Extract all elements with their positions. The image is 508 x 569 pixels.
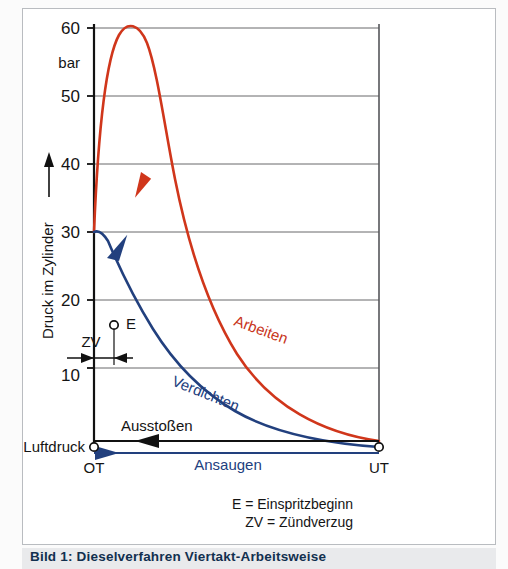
legend-line-zv: ZV = Zündverzug <box>245 514 353 530</box>
label-luftdruck: Luftdruck <box>23 438 85 455</box>
legend-line-e: E = Einspritzbeginn <box>232 496 353 512</box>
y-axis-title: Druck im Zylinder <box>39 222 56 339</box>
marker-e-label: E <box>126 315 136 332</box>
arrow-ausstossen <box>135 434 159 448</box>
y-tick-30: 30 <box>61 223 80 242</box>
y-tick-10: 10 <box>61 366 80 385</box>
zv-measure-arrow <box>67 353 133 363</box>
figure-caption-bar: Bild 1: Dieselverfahren Viertakt-Arbeits… <box>22 548 496 569</box>
label-arbeiten: Arbeiten <box>232 312 290 347</box>
marker-ot-point <box>90 443 98 451</box>
arrow-expansion <box>130 172 152 201</box>
zv-label: ZV <box>81 333 100 350</box>
marker-e-point <box>110 321 118 329</box>
label-ausstossen: Ausstoßen <box>121 417 193 434</box>
marker-ut-point <box>375 443 383 451</box>
y-tick-50: 50 <box>61 87 80 106</box>
curve-verdichten <box>94 231 379 447</box>
figure-caption: Bild 1: Dieselverfahren Viertakt-Arbeits… <box>30 549 326 564</box>
y-axis-title-group: Druck im Zylinder <box>39 152 56 339</box>
x-tick-ut: UT <box>369 459 389 476</box>
figure-page: 60 bar 50 40 30 20 10 Druck im Zylinder <box>0 0 508 569</box>
x-tick-ot: OT <box>84 459 105 476</box>
y-axis-arrow-head <box>44 152 54 167</box>
y-unit-label: bar <box>58 54 80 71</box>
pv-diagram: 60 bar 50 40 30 20 10 Druck im Zylinder <box>23 9 497 546</box>
legend: E = Einspritzbeginn ZV = Zündverzug <box>232 496 353 530</box>
label-verdichten: Verdichten <box>170 372 242 414</box>
figure-panel: 60 bar 50 40 30 20 10 Druck im Zylinder <box>22 8 496 545</box>
curve-arbeiten <box>94 26 379 441</box>
y-tick-60: 60 <box>61 19 80 38</box>
label-ansaugen: Ansaugen <box>194 456 262 473</box>
y-tick-20: 20 <box>61 291 80 310</box>
y-tick-40: 40 <box>61 155 80 174</box>
